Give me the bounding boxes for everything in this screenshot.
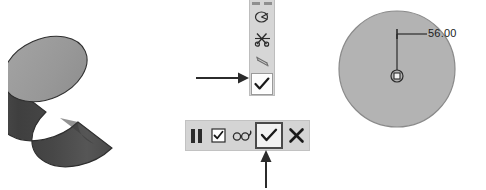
glasses-icon[interactable]	[231, 123, 253, 149]
callout-arrow-up	[258, 150, 274, 190]
cylinder-graphic	[8, 26, 136, 182]
canvas-stage: 56.00	[0, 0, 486, 190]
close-x-icon[interactable]	[285, 123, 307, 149]
context-mini-toolbar[interactable]	[249, 0, 275, 96]
sketch-confirm-toolbar[interactable]	[185, 120, 310, 151]
center-point-square	[394, 73, 400, 79]
grip-bar	[198, 129, 202, 143]
grip-bar	[191, 129, 195, 143]
ok-check-button[interactable]	[255, 122, 283, 149]
cylinder-3d-preview	[8, 26, 136, 182]
circle-sketch-preview	[337, 3, 483, 139]
callout-arrow-right	[196, 70, 252, 90]
circle-sketch-graphic	[337, 3, 483, 139]
dimension-icon[interactable]	[251, 51, 273, 73]
trim-scissors-icon[interactable]	[251, 29, 273, 51]
sketch-region-icon[interactable]	[251, 7, 273, 29]
checkbox-checked-icon[interactable]	[207, 123, 229, 149]
drag-handle[interactable]	[191, 129, 202, 143]
grip-bar	[252, 2, 260, 5]
grip-bar	[264, 2, 272, 5]
accept-check-button[interactable]	[251, 73, 273, 95]
diameter-dimension-value: 56.00	[428, 28, 457, 39]
